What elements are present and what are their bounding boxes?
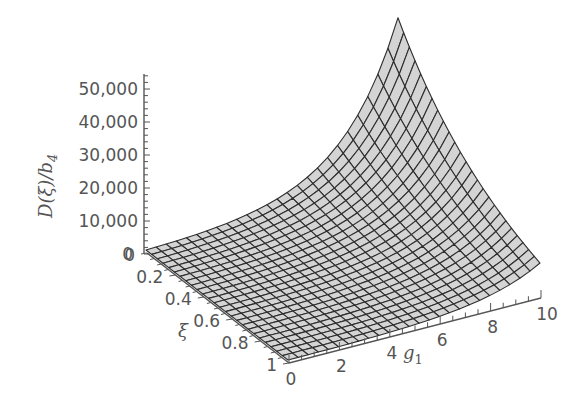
g1-tick-label: 2 — [336, 356, 347, 376]
xi-tick — [169, 275, 175, 276]
xi-tick — [271, 352, 275, 353]
xi-tick — [242, 330, 246, 331]
g1-tick-label: 0 — [286, 369, 297, 389]
surface-plot: 010,00020,00030,00040,00050,00000.20.40.… — [0, 0, 578, 413]
xi-tick — [235, 325, 239, 326]
xi-tick — [221, 314, 225, 315]
xi-tick-label: 0.4 — [165, 289, 192, 309]
xi-tick-label: 1 — [266, 355, 277, 375]
xi-tick — [264, 347, 268, 348]
g1-axis-title: g1 — [403, 342, 423, 367]
xi-tick-label: 0.2 — [136, 267, 163, 287]
xi-tick — [214, 308, 218, 309]
xi-axis-title: ξ — [178, 320, 189, 341]
xi-tick — [283, 363, 289, 364]
z-axis-title: D(ξ)/b4 — [35, 154, 60, 219]
g1-tick-label: 4 — [386, 343, 397, 363]
xi-tick — [157, 264, 161, 265]
z-tick-label: 50,000 — [79, 79, 138, 99]
surface-mesh — [146, 18, 540, 360]
z-tick-label: 10,000 — [79, 211, 138, 231]
z-tick-label: 40,000 — [79, 112, 138, 132]
xi-tick-label: 0.6 — [193, 311, 220, 331]
z-tick-label: 30,000 — [79, 145, 138, 165]
xi-tick — [198, 297, 204, 298]
xi-tick — [226, 319, 232, 320]
xi-tick — [164, 270, 168, 271]
g1-tick-label: 10 — [536, 304, 558, 324]
xi-tick — [250, 336, 254, 337]
z-tick-label: 20,000 — [79, 178, 138, 198]
xi-tick — [278, 358, 282, 359]
xi-tick — [150, 259, 154, 260]
g1-tick-label: 8 — [487, 317, 498, 337]
g1-tick-label: 6 — [437, 330, 448, 350]
xi-tick — [255, 341, 261, 342]
xi-tick — [179, 281, 183, 282]
xi-tick — [207, 303, 211, 304]
xi-tick-label: 0.8 — [222, 333, 249, 353]
xi-tick-label: 0 — [124, 245, 135, 265]
xi-tick — [186, 286, 190, 287]
xi-tick — [193, 292, 197, 293]
